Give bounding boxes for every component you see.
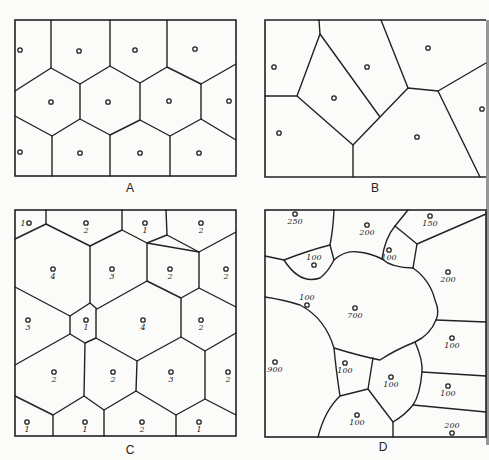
- control-point-icon: [415, 135, 419, 139]
- point-value-label: 200: [358, 228, 374, 237]
- control-point-icon: [426, 46, 430, 50]
- point-value-label: 1: [83, 323, 88, 332]
- point-value-label: 1: [142, 226, 147, 235]
- control-point-icon: [77, 49, 81, 53]
- panel-b: B: [265, 20, 486, 195]
- point-value-label: 900: [267, 365, 282, 374]
- control-point-icon: [84, 318, 88, 322]
- control-point-icon: [480, 107, 484, 111]
- panel-a-points: [18, 47, 231, 155]
- point-value-label: 700: [347, 311, 362, 320]
- control-point-icon: [110, 267, 114, 271]
- panel-b-caption: B: [371, 181, 379, 195]
- point-value-label: 100: [337, 366, 352, 375]
- point-value-label: 2: [222, 272, 228, 281]
- point-value-label: 1: [196, 425, 201, 434]
- control-point-icon: [51, 267, 55, 271]
- control-point-icon: [428, 214, 432, 218]
- point-value-label: 150: [422, 219, 437, 228]
- control-point-icon: [343, 361, 347, 365]
- panel-d-points: 2502001501001002001007001009001001001001…: [267, 212, 459, 435]
- panel-d-frame: [265, 210, 486, 437]
- panel-b-edges: [265, 20, 486, 177]
- control-point-icon: [138, 151, 142, 155]
- control-point-icon: [226, 370, 230, 374]
- panel-d-edges: [265, 210, 486, 437]
- point-value-label: 4: [139, 323, 145, 332]
- control-point-icon: [365, 223, 369, 227]
- point-value-label: 2: [166, 272, 172, 281]
- control-point-icon: [106, 100, 110, 104]
- point-value-label: 100: [440, 389, 455, 398]
- panel-b-frame: [265, 20, 486, 177]
- control-point-icon: [167, 99, 171, 103]
- point-value-label: 1: [24, 425, 29, 434]
- control-point-icon: [273, 360, 277, 364]
- panel-d: 2502001501001002001007001009001001001001…: [265, 210, 486, 454]
- point-value-label: 100: [299, 293, 314, 302]
- control-point-icon: [199, 318, 203, 322]
- control-point-icon: [49, 100, 53, 104]
- control-point-icon: [387, 248, 391, 252]
- point-value-label: 2: [109, 375, 115, 384]
- point-value-label: 2: [197, 226, 203, 235]
- control-point-icon: [133, 48, 137, 52]
- control-point-icon: [197, 420, 201, 424]
- control-point-icon: [83, 420, 87, 424]
- control-point-icon: [446, 384, 450, 388]
- point-value-label: 2: [50, 375, 56, 384]
- point-value-label: 100: [444, 341, 459, 350]
- control-point-icon: [293, 212, 297, 216]
- control-point-icon: [227, 99, 231, 103]
- control-point-icon: [140, 420, 144, 424]
- panel-c: 12124322314222321121 C: [15, 210, 236, 457]
- point-value-label: 2: [197, 323, 203, 332]
- point-value-label: 200: [439, 275, 455, 284]
- control-point-icon: [450, 336, 454, 340]
- panel-b-points: [272, 46, 484, 139]
- control-point-icon: [332, 96, 336, 100]
- control-point-icon: [272, 65, 276, 69]
- control-point-icon: [26, 318, 30, 322]
- control-point-icon: [78, 151, 82, 155]
- control-point-icon: [169, 370, 173, 374]
- point-value-label: 1: [20, 219, 25, 228]
- point-value-label: 250: [286, 217, 302, 226]
- point-value-label: 100: [383, 380, 398, 389]
- point-value-label: 100: [381, 253, 396, 262]
- control-point-icon: [305, 303, 309, 307]
- point-value-label: 3: [168, 375, 173, 384]
- control-point-icon: [197, 151, 201, 155]
- control-point-icon: [355, 413, 359, 417]
- control-point-icon: [52, 370, 56, 374]
- panel-a-edges: [15, 20, 236, 176]
- panel-d-caption: D: [379, 440, 388, 454]
- control-point-icon: [312, 263, 316, 267]
- control-point-icon: [25, 420, 29, 424]
- control-point-icon: [18, 48, 22, 52]
- control-point-icon: [18, 150, 22, 154]
- point-value-label: 4: [49, 272, 55, 281]
- panel-a: A: [15, 20, 236, 195]
- control-point-icon: [353, 306, 357, 310]
- control-point-icon: [27, 221, 31, 225]
- point-value-label: 100: [349, 418, 364, 427]
- control-point-icon: [84, 221, 88, 225]
- control-point-icon: [365, 65, 369, 69]
- panel-a-caption: A: [126, 181, 134, 195]
- point-value-label: 3: [25, 323, 30, 332]
- point-value-label: 2: [224, 375, 230, 384]
- thiessen-polygon-figure: A B: [0, 0, 489, 460]
- control-point-icon: [193, 47, 197, 51]
- panel-a-frame: [15, 20, 236, 176]
- control-point-icon: [143, 221, 147, 225]
- control-point-icon: [168, 267, 172, 271]
- control-point-icon: [446, 270, 450, 274]
- point-value-label: 2: [82, 226, 88, 235]
- point-value-label: 200: [443, 421, 459, 430]
- point-value-label: 1: [82, 425, 87, 434]
- point-value-label: 100: [306, 253, 321, 262]
- control-point-icon: [141, 318, 145, 322]
- control-point-icon: [111, 370, 115, 374]
- point-value-label: 3: [109, 272, 114, 281]
